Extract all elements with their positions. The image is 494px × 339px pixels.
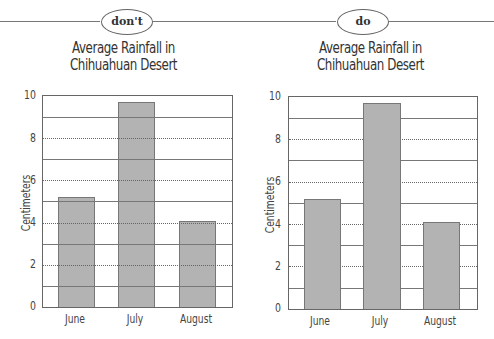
- bar-july: [363, 103, 401, 309]
- gridline-6: [43, 180, 232, 181]
- x-tick-august: August: [415, 314, 466, 328]
- title-line-1: Average Rainfall in: [262, 40, 479, 57]
- y-tick-4: 4: [20, 214, 36, 229]
- title-line-2: Chihuahuan Desert: [262, 57, 479, 74]
- bar-june: [58, 197, 95, 307]
- plot-area: [42, 95, 233, 308]
- x-tick-august: August: [171, 312, 222, 326]
- chart-title: Average Rainfall in Chihuahuan Desert: [262, 40, 479, 74]
- gridline-8: [43, 138, 232, 139]
- y-tick-0: 0: [265, 300, 281, 315]
- chart-do: Average Rainfall in Chihuahuan Desert Ce…: [247, 0, 494, 339]
- y-tick-8: 8: [265, 131, 281, 146]
- gridline-3: [43, 244, 232, 245]
- y-tick-6: 6: [20, 172, 36, 187]
- x-tick-june: June: [295, 314, 346, 328]
- title-line-1: Average Rainfall in: [15, 40, 232, 57]
- gridline-1: [43, 286, 232, 287]
- gridline-9: [43, 117, 232, 118]
- bar-august: [179, 221, 216, 308]
- gridline-7: [43, 159, 232, 160]
- y-tick-6: 6: [265, 173, 281, 188]
- plot-area: [288, 96, 478, 310]
- chart-dont: Average Rainfall in Chihuahuan Desert Ce…: [0, 0, 247, 339]
- y-tick-10: 10: [265, 88, 281, 103]
- chart-title: Average Rainfall in Chihuahuan Desert: [15, 40, 232, 74]
- title-line-2: Chihuahuan Desert: [15, 57, 232, 74]
- y-tick-2: 2: [265, 258, 281, 273]
- y-tick-0: 0: [20, 298, 36, 313]
- gridline-2: [43, 265, 232, 266]
- bar-august: [423, 222, 460, 309]
- gridline-4: [43, 223, 232, 224]
- y-tick-2: 2: [20, 256, 36, 271]
- y-tick-8: 8: [20, 130, 36, 145]
- bar-july: [118, 102, 155, 307]
- x-tick-july: July: [110, 312, 161, 326]
- bar-june: [304, 199, 341, 309]
- gridline-5: [43, 201, 232, 202]
- y-tick-10: 10: [20, 87, 36, 102]
- y-tick-4: 4: [265, 216, 281, 231]
- x-tick-june: June: [50, 312, 101, 326]
- x-tick-july: July: [355, 314, 406, 328]
